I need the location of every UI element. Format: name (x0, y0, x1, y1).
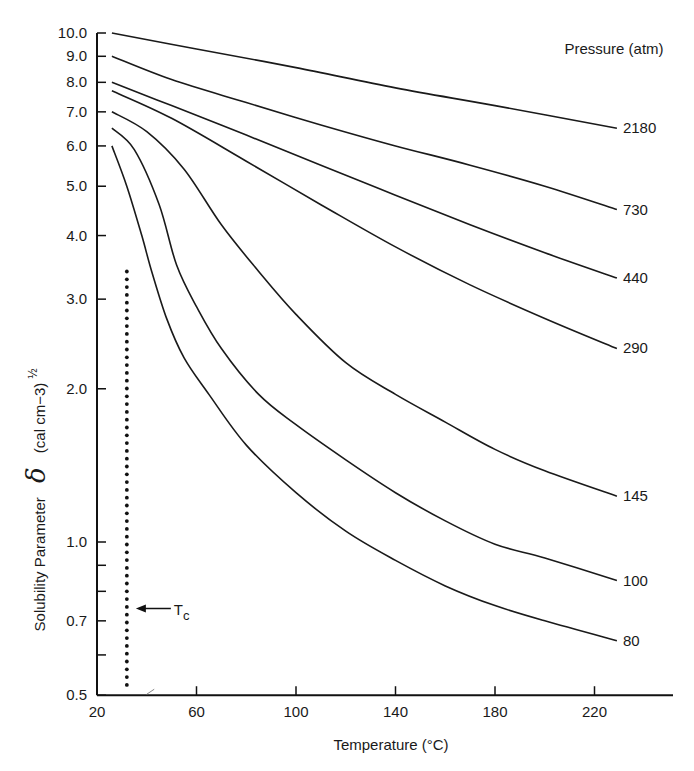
legend-title: Pressure (atm) (564, 40, 663, 57)
x-tick-label: 140 (383, 703, 408, 720)
y-tick-label: 2.0 (66, 380, 87, 397)
y-axis-title-text: Solubility Parameter (31, 497, 48, 631)
y-tick-label: 3.0 (66, 290, 87, 307)
x-tick-label: 220 (582, 703, 607, 720)
curve-label-290: 290 (623, 339, 648, 356)
y-tick-label: 0.5 (66, 686, 87, 703)
curve-label-145: 145 (623, 487, 648, 504)
y-tick-label: 4.0 (66, 227, 87, 244)
y-axis-exponent: ½ (26, 369, 40, 379)
y-tick-label: 0.7 (66, 612, 87, 629)
y-tick-label: 5.0 (66, 177, 87, 194)
curve-2180-atm (112, 33, 617, 128)
curve-label-440: 440 (623, 269, 648, 286)
x-axis-title: Temperature (°C) (333, 736, 448, 753)
curve-145-atm (112, 112, 617, 496)
x-tick-label: 180 (482, 703, 507, 720)
axes (97, 33, 673, 695)
x-tick-label: 20 (89, 703, 106, 720)
y-axis-units: (cal cm−3) (31, 383, 48, 453)
tc-label: Tc (174, 601, 190, 623)
curve-290-atm (112, 91, 617, 349)
pressure-curves (112, 33, 617, 641)
solubility-parameter-chart: 20601001401802200.50.71.02.03.04.05.06.0… (0, 0, 694, 771)
curve-label-100: 100 (623, 572, 648, 589)
stray-mark (147, 689, 154, 694)
delta-symbol: δ (21, 467, 51, 483)
curve-labels: 218073044029014510080 (623, 119, 656, 648)
curve-label-2180: 2180 (623, 119, 656, 136)
tc-arrow-icon (136, 605, 171, 613)
y-axis-title: Solubility Parameter δ (cal cm−3) ½ (21, 369, 51, 632)
y-tick-label: 8.0 (66, 73, 87, 90)
curve-80-atm (112, 146, 617, 641)
curve-440-atm (112, 82, 617, 278)
y-tick-label: 7.0 (66, 103, 87, 120)
tc-annotation: Tc (125, 270, 190, 687)
curve-label-730: 730 (623, 201, 648, 218)
y-tick-label: 6.0 (66, 137, 87, 154)
x-tick-label: 100 (283, 703, 308, 720)
x-tick-label: 60 (188, 703, 205, 720)
curve-730-atm (112, 56, 617, 209)
curve-label-80: 80 (623, 632, 640, 649)
tc-dotted-line (125, 270, 129, 687)
svg-text:Solubility Parameter δ: Solubility Parameter δ (cal cm−3) ½ (21, 369, 51, 632)
y-tick-label: 1.0 (66, 533, 87, 550)
curve-100-atm (112, 128, 617, 580)
y-tick-label: 10.0 (58, 24, 87, 41)
y-tick-label: 9.0 (66, 47, 87, 64)
